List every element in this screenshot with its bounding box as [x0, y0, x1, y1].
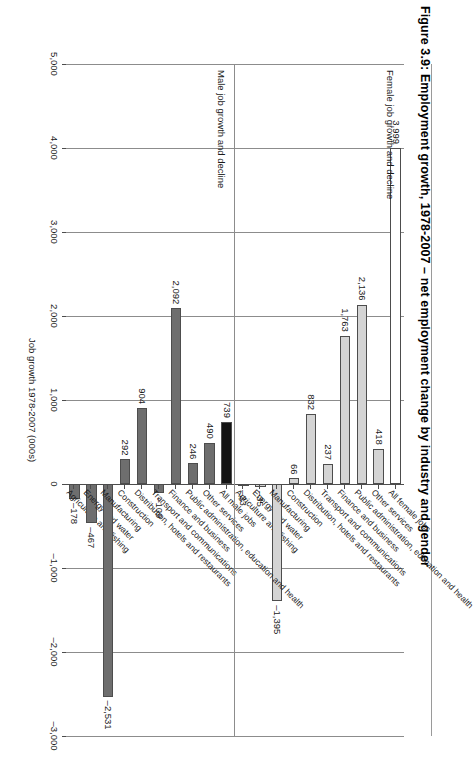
category-tick	[259, 484, 260, 489]
bar	[171, 308, 181, 484]
axis-tick-label: 2,000	[49, 304, 60, 328]
bar-value-label: 66	[289, 464, 300, 475]
group-separator	[234, 64, 235, 736]
axis-tick-label: –3,000	[49, 721, 60, 750]
axis-tick-label: 5,000	[49, 52, 60, 76]
plot-area: Agriculture and fishing–23Energy and wat…	[66, 64, 404, 736]
bar	[238, 484, 248, 486]
category-tick	[276, 484, 277, 489]
grid-line	[66, 736, 404, 737]
axis-tick	[62, 568, 66, 569]
bar	[289, 478, 299, 484]
bar-value-label: 292	[120, 440, 131, 456]
value-axis: Job growth 1978-2007 (000s) 5,0004,0003,…	[10, 64, 66, 736]
bar-value-label: –35	[255, 491, 266, 507]
bar	[357, 305, 367, 484]
bar-value-label: 904	[137, 388, 148, 404]
category-tick	[242, 484, 243, 489]
bar-group-female: Agriculture and fishing–23Energy and wat…	[235, 64, 404, 736]
bar-value-label: –1,395	[272, 605, 283, 634]
axis-tick	[62, 652, 66, 653]
axis-tick	[62, 232, 66, 233]
bar	[137, 408, 147, 484]
bar-value-label: –2,531	[103, 701, 114, 730]
group-caption-female: Female job growth and decline	[385, 70, 396, 199]
bar-value-label: –109	[154, 497, 165, 518]
bar	[188, 463, 198, 484]
bar-value-label: –467	[86, 527, 97, 548]
bar-group-male: Agriculture and fishing–178Energy and wa…	[66, 64, 235, 736]
bar	[221, 422, 231, 484]
axis-tick	[62, 736, 66, 737]
category-tick	[90, 484, 91, 489]
bar	[120, 459, 130, 484]
axis-tick-label: 4,000	[49, 136, 60, 160]
figure-title: Figure 3.9: Employment growth, 1978-2007…	[418, 6, 432, 567]
axis-tick	[62, 400, 66, 401]
axis-tick-label: 0	[49, 481, 60, 486]
bar	[323, 464, 333, 484]
bar-value-label: 2,136	[357, 277, 368, 301]
bar-value-label: 246	[188, 443, 199, 459]
bar-value-label: 1,763	[340, 308, 351, 332]
bar	[340, 336, 350, 484]
bar-value-label: 2,092	[171, 280, 182, 304]
bar	[103, 484, 113, 697]
value-axis-title: Job growth 1978-2007 (000s)	[27, 64, 38, 736]
bar	[204, 443, 214, 484]
axis-tick-label: 3,000	[49, 220, 60, 244]
axis-tick-label: 1,000	[49, 388, 60, 412]
axis-tick	[62, 64, 66, 65]
axis-tick	[62, 484, 66, 485]
category-tick	[73, 484, 74, 489]
axis-tick-label: –2,000	[49, 637, 60, 666]
bar-value-label: 832	[306, 394, 317, 410]
axis-tick-label: –1,000	[49, 553, 60, 582]
bar-value-label: 490	[205, 423, 216, 439]
bar-value-label: 418	[374, 429, 385, 445]
bar-value-label: –178	[69, 503, 80, 524]
bar-value-label: 237	[323, 444, 334, 460]
category-tick	[107, 484, 108, 489]
bar	[306, 414, 316, 484]
axis-tick	[62, 316, 66, 317]
plot-top-border	[431, 64, 432, 736]
bar-value-label: 739	[222, 402, 233, 418]
axis-tick	[62, 148, 66, 149]
bar	[373, 449, 383, 484]
group-caption-male: Male job growth and decline	[216, 70, 227, 188]
